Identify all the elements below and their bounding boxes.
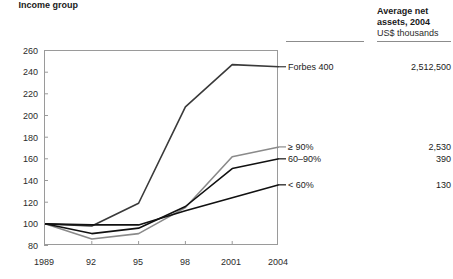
y-tick-100: 100 bbox=[8, 220, 38, 229]
x-tick-95: 95 bbox=[118, 258, 158, 267]
y-tick-200: 200 bbox=[8, 112, 38, 121]
y-tick-140: 140 bbox=[8, 177, 38, 186]
series-label-top-10-percent: ≥ 90% bbox=[288, 142, 313, 152]
y-tick-160: 160 bbox=[8, 155, 38, 164]
chart-page: Income group Average net assets, 2004 US… bbox=[0, 0, 453, 279]
y-tick-120: 120 bbox=[8, 199, 38, 208]
y-tick-180: 180 bbox=[8, 134, 38, 143]
average-net-assets-column-header: Average net assets, 2004 bbox=[377, 6, 451, 28]
x-tick-1989: 1989 bbox=[24, 258, 64, 267]
assets-header-rule bbox=[377, 41, 451, 42]
income-group-column-header: Income group bbox=[0, 0, 78, 10]
y-tick-220: 220 bbox=[8, 90, 38, 99]
series-value-under-60-percent: 130 bbox=[377, 180, 451, 190]
series-value-60-90-percent: 390 bbox=[377, 154, 451, 164]
y-tick-80: 80 bbox=[8, 242, 38, 251]
x-tick-92: 92 bbox=[71, 258, 111, 267]
y-tick-240: 240 bbox=[8, 68, 38, 77]
plot-area bbox=[44, 50, 278, 245]
income-group-header-rule bbox=[286, 41, 364, 42]
y-tick-260: 260 bbox=[8, 47, 38, 56]
x-tick-98: 98 bbox=[165, 258, 205, 267]
series-value-top-10-percent: 2,530 bbox=[377, 142, 451, 152]
series-label-60-90-percent: 60–90% bbox=[288, 154, 321, 164]
assets-unit-label: US$ thousands bbox=[377, 28, 451, 39]
x-tick-2004: 2004 bbox=[258, 258, 298, 267]
series-value-forbes-400: 2,512,500 bbox=[377, 62, 451, 72]
series-label-forbes-400: Forbes 400 bbox=[288, 62, 334, 72]
series-label-under-60-percent: < 60% bbox=[288, 180, 314, 190]
x-tick-2001: 2001 bbox=[211, 258, 251, 267]
